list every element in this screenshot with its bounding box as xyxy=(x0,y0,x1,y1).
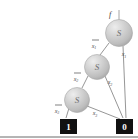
svg-text:x2: x2 xyxy=(73,76,79,83)
edge-label-x2: x2 xyxy=(107,79,113,86)
edge-label-not-x2-sub: 2 xyxy=(76,78,78,83)
decision-node-2-label: S xyxy=(95,62,100,72)
bdd-canvas: f x1 x1 x xyxy=(0,0,138,139)
edge-label-x3-sub: 3 xyxy=(95,112,97,117)
terminal-node-one-value: 1 xyxy=(66,122,71,132)
decision-node-3[interactable]: S xyxy=(65,88,90,113)
decision-node-1[interactable]: S xyxy=(106,20,133,47)
decision-node-3-label: S xyxy=(75,95,80,105)
edge-label-not-x2: x2 xyxy=(73,73,81,83)
edge-label-not-x3: x3 xyxy=(54,105,62,115)
edge-n2-n3 xyxy=(82,76,88,88)
edge-label-not-x3-sub: 3 xyxy=(57,110,59,115)
decision-node-1-label: S xyxy=(117,28,122,38)
edge-label-not-x1-sub: 1 xyxy=(94,45,96,50)
decision-node-2[interactable]: S xyxy=(85,55,110,80)
terminal-node-zero[interactable]: 0 xyxy=(116,119,133,134)
svg-text:x2: x2 xyxy=(107,79,113,86)
function-output-label: f xyxy=(109,10,113,19)
edge-label-x2-sub: 2 xyxy=(110,81,112,86)
edge-label-x3: x3 xyxy=(92,110,98,117)
edge-label-x1-sub: 1 xyxy=(124,53,126,58)
terminal-node-zero-value: 0 xyxy=(122,122,127,132)
edge-n1-n2 xyxy=(100,43,109,55)
edge-label-x1: x1 xyxy=(121,51,127,58)
terminal-node-one[interactable]: 1 xyxy=(60,119,77,134)
svg-text:x1: x1 xyxy=(121,51,127,58)
svg-text:x1: x1 xyxy=(91,43,97,50)
edge-label-not-x1: x1 xyxy=(91,40,99,50)
bdd-figure: f x1 x1 x xyxy=(0,0,138,139)
svg-text:x3: x3 xyxy=(92,110,98,117)
svg-text:x3: x3 xyxy=(54,108,60,115)
